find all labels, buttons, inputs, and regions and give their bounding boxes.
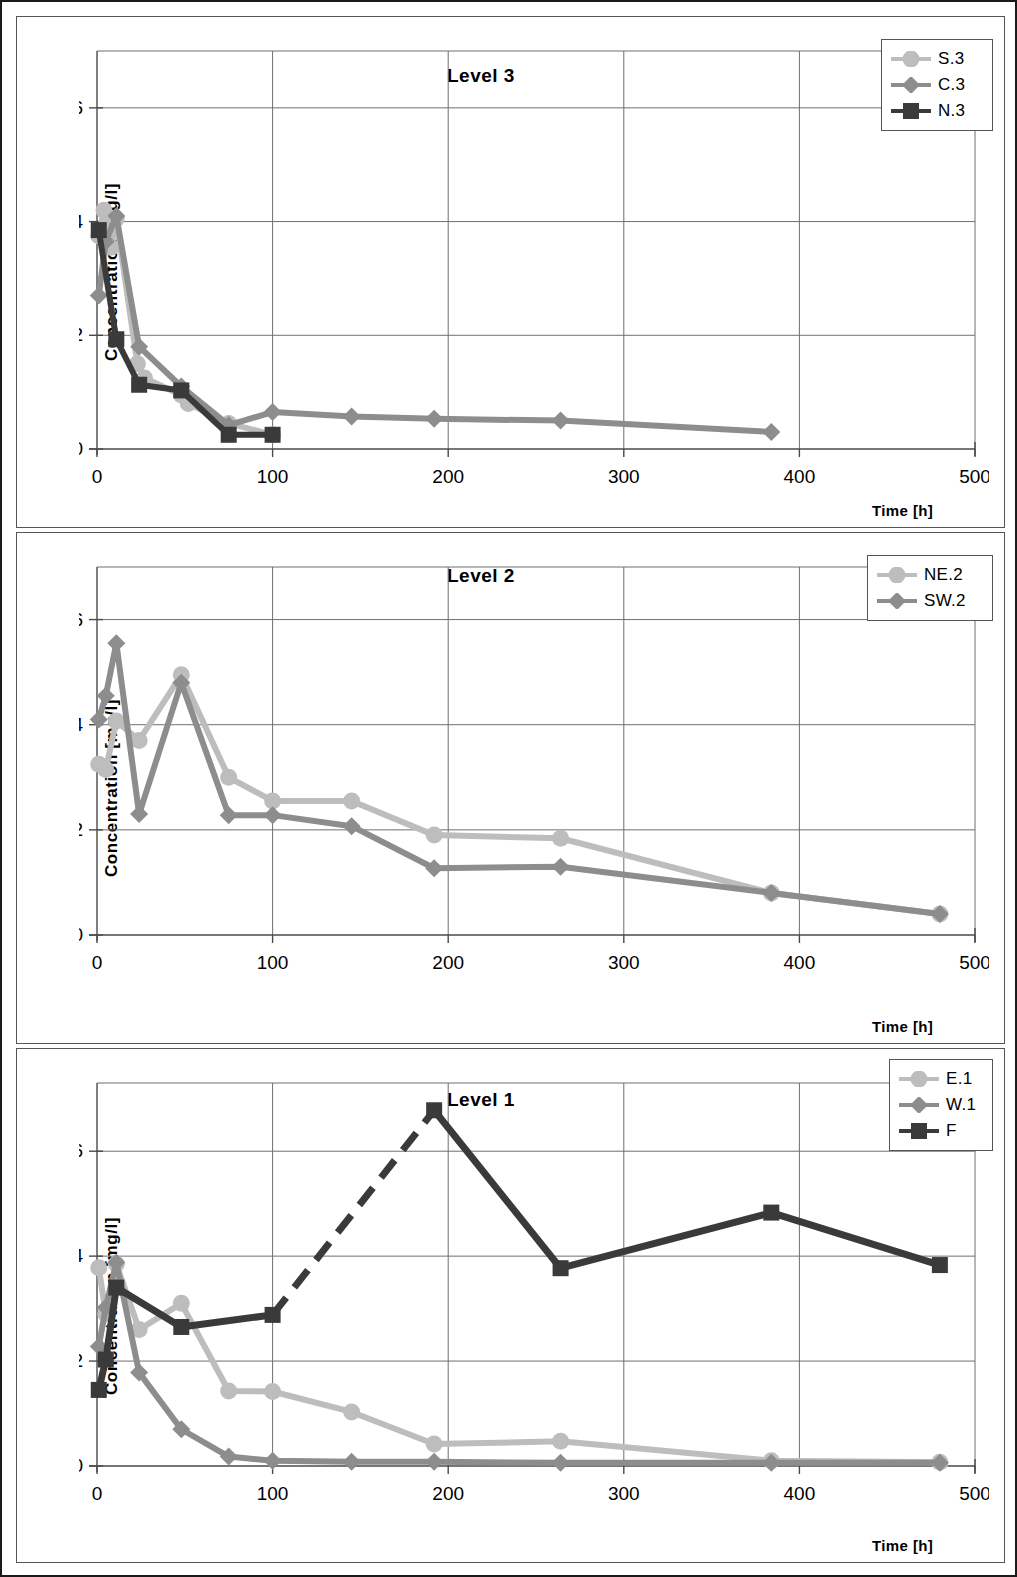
chart-legend[interactable]: NE.2SW.2 — [867, 555, 993, 621]
chart-panel-level-2: Concentration [mg/l] Level 2 02460100200… — [16, 532, 1005, 1044]
legend-key-icon — [875, 593, 919, 609]
legend-item-n-3[interactable]: N.3 — [889, 98, 983, 124]
legend-key-icon — [889, 77, 933, 93]
legend-item-label: N.3 — [938, 101, 965, 121]
legend-item-s-3[interactable]: S.3 — [889, 46, 983, 72]
y-tick-label: 2 — [79, 819, 83, 840]
x-tick-label: 0 — [92, 1483, 103, 1504]
y-tick-label: 4 — [79, 211, 83, 232]
legend-item-label: E.1 — [946, 1069, 972, 1089]
x-tick-label: 400 — [784, 466, 816, 487]
plot-canvas: 02460100200300400500 — [79, 37, 989, 507]
y-tick-label: 2 — [79, 1350, 83, 1371]
x-tick-label: 0 — [92, 466, 103, 487]
x-tick-label: 400 — [784, 1483, 816, 1504]
legend-item-label: S.3 — [938, 49, 964, 69]
series-e-1 — [90, 1256, 948, 1471]
y-tick-label: 6 — [79, 609, 83, 630]
x-tick-label: 500 — [959, 1483, 989, 1504]
y-tick-label: 6 — [79, 97, 83, 118]
series-sw-2 — [90, 634, 949, 923]
legend-item-sw-2[interactable]: SW.2 — [875, 588, 983, 614]
x-tick-label: 500 — [959, 466, 989, 487]
legend-key-icon — [897, 1097, 941, 1113]
x-axis-label: Time [h] — [872, 1537, 933, 1554]
x-tick-label: 300 — [608, 952, 640, 973]
plot-canvas: 02460100200300400500 — [79, 1069, 989, 1524]
x-tick-label: 200 — [432, 952, 464, 973]
legend-item-e-1[interactable]: E.1 — [897, 1066, 983, 1092]
y-tick-label: 0 — [79, 1455, 83, 1476]
chart-panel-level-1: Concentration [mg/l] Level 1 02460100200… — [16, 1048, 1005, 1563]
x-axis-label: Time [h] — [872, 1018, 933, 1035]
legend-item-f[interactable]: F — [897, 1118, 983, 1144]
x-tick-label: 0 — [92, 952, 103, 973]
legend-item-label: NE.2 — [924, 565, 963, 585]
legend-key-icon — [875, 567, 919, 583]
plot-area: 02460100200300400500 — [79, 553, 989, 993]
y-tick-label: 0 — [79, 924, 83, 945]
y-tick-label: 4 — [79, 1245, 83, 1266]
x-tick-label: 500 — [959, 952, 989, 973]
chart-panel-level-3: Concentration [mg/l] Level 3 02460100200… — [16, 16, 1005, 528]
plot-area: 02460100200300400500 — [79, 1069, 989, 1524]
legend-item-label: SW.2 — [924, 591, 966, 611]
legend-item-label: C.3 — [938, 75, 965, 95]
x-tick-label: 300 — [608, 1483, 640, 1504]
legend-item-c-3[interactable]: C.3 — [889, 72, 983, 98]
legend-item-label: F — [946, 1121, 957, 1141]
x-tick-label: 400 — [784, 952, 816, 973]
x-tick-label: 200 — [432, 466, 464, 487]
legend-key-icon — [897, 1123, 941, 1139]
legend-key-icon — [889, 103, 933, 119]
legend-key-icon — [897, 1071, 941, 1087]
y-tick-label: 4 — [79, 714, 83, 735]
legend-key-icon — [889, 51, 933, 67]
series-w-1 — [90, 1253, 949, 1471]
y-tick-label: 2 — [79, 324, 83, 345]
series-f — [91, 1102, 948, 1398]
plot-area: 02460100200300400500 — [79, 37, 989, 507]
x-tick-label: 100 — [257, 952, 289, 973]
chart-legend[interactable]: E.1W.1F — [889, 1059, 993, 1151]
plot-canvas: 02460100200300400500 — [79, 553, 989, 993]
y-tick-label: 6 — [79, 1140, 83, 1161]
figure-page: Concentration [mg/l] Level 3 02460100200… — [0, 0, 1017, 1577]
legend-item-ne-2[interactable]: NE.2 — [875, 562, 983, 588]
legend-item-label: W.1 — [946, 1095, 976, 1115]
chart-legend[interactable]: S.3C.3N.3 — [881, 39, 993, 131]
x-tick-label: 200 — [432, 1483, 464, 1504]
x-tick-label: 300 — [608, 466, 640, 487]
y-tick-label: 0 — [79, 438, 83, 459]
x-tick-label: 100 — [257, 466, 289, 487]
x-axis-label: Time [h] — [872, 502, 933, 519]
legend-item-w-1[interactable]: W.1 — [897, 1092, 983, 1118]
x-tick-label: 100 — [257, 1483, 289, 1504]
